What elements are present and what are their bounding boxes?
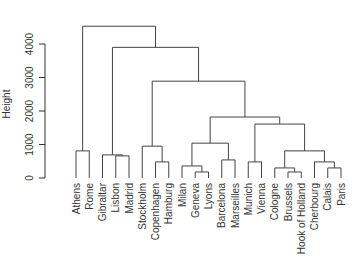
leaf-label: Athens	[71, 183, 82, 214]
leaf-label: Gibraltar	[97, 182, 108, 221]
dendrogram-merge	[255, 124, 305, 162]
leaf-label: Geneva	[190, 183, 201, 218]
y-tick-label: 4000	[24, 32, 35, 55]
dendrogram-merge	[76, 151, 89, 178]
leaf-labels: AthensRomeGibraltarLisbonMadridStockholm…	[71, 182, 347, 254]
y-tick-label: 1000	[24, 133, 35, 156]
y-tick-label: 2000	[24, 99, 35, 122]
dendrogram-branches	[76, 26, 341, 178]
y-axis-title: Height	[1, 89, 12, 118]
dendrogram-merge	[116, 156, 129, 178]
dendrogram-merge	[315, 162, 335, 178]
dendrogram-merge	[103, 155, 123, 178]
dendrogram-merge	[210, 117, 280, 143]
dendrogram-merge	[285, 151, 325, 168]
dendrogram-merge	[328, 168, 341, 178]
leaf-label: Lyons	[203, 183, 214, 209]
dendrogram-merge	[152, 81, 245, 146]
leaf-label: Hamburg	[163, 183, 174, 224]
leaf-label: Marseilles	[230, 183, 241, 228]
leaf-label: Madrid	[124, 183, 135, 214]
dendrogram-merge	[195, 172, 208, 178]
dendrogram-merge	[275, 168, 295, 178]
leaf-label: Lisbon	[110, 183, 121, 212]
dendrogram-chart: 01000200030004000Height AthensRomeGibral…	[0, 0, 360, 280]
dendrogram-merge	[112, 47, 198, 155]
leaf-label: Munich	[243, 183, 254, 215]
leaf-label: Calais	[322, 183, 333, 211]
leaf-label: Rome	[84, 183, 95, 210]
leaf-label: Hook of Holland	[296, 183, 307, 254]
leaf-label: Cherbourg	[309, 183, 320, 230]
leaf-label: Milan	[177, 183, 188, 207]
y-tick-label: 0	[24, 175, 35, 181]
dendrogram-merge	[156, 162, 169, 178]
leaf-label: Paris	[336, 183, 347, 206]
y-axis: 01000200030004000Height	[1, 32, 45, 180]
dendrogram-merge	[222, 160, 235, 178]
dendrogram-merge	[192, 143, 228, 166]
dendrogram-merge	[248, 162, 261, 178]
leaf-label: Brussels	[283, 183, 294, 221]
leaf-label: Barcelona	[216, 183, 227, 228]
dendrogram-merge	[83, 26, 156, 151]
y-tick-label: 3000	[24, 66, 35, 89]
leaf-label: Vienna	[256, 183, 267, 214]
leaf-label: Copenhagen	[150, 183, 161, 240]
dendrogram-merge	[288, 172, 301, 178]
leaf-label: Cologne	[269, 183, 280, 221]
leaf-label: Stockholm	[137, 183, 148, 230]
